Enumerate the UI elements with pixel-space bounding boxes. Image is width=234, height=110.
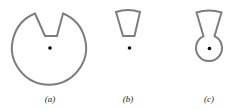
panel-label-c: (c) (204, 94, 214, 104)
pivot-point-c (208, 47, 212, 51)
panel-b: (b) (116, 10, 140, 104)
panel-label-a: (a) (45, 94, 56, 104)
figure-three-shapes: (a) (b) (c) (0, 0, 234, 110)
pivot-point-b (128, 46, 132, 50)
panel-c: (c) (196, 10, 222, 104)
wedge-with-hub-outline (196, 10, 222, 60)
panel-a: (a) (12, 14, 86, 105)
wedge-sector-outline (116, 10, 140, 36)
panel-label-b: (b) (123, 94, 134, 104)
pivot-point-a (48, 46, 52, 50)
